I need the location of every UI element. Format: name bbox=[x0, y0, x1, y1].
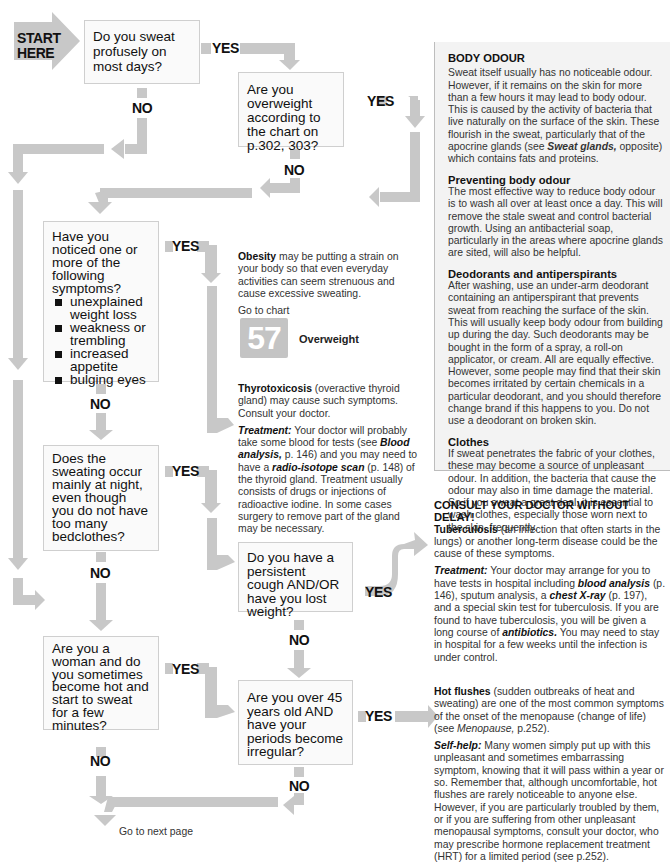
q2-no-label: NO bbox=[284, 162, 304, 178]
antibiotics-link[interactable]: antibiotics. bbox=[502, 627, 557, 638]
question-text: Do you have a persistent cough AND/OR ha… bbox=[247, 550, 339, 619]
section-heading: Clothes bbox=[448, 436, 664, 448]
blood-analysis-link[interactable]: blood analysis bbox=[578, 578, 650, 589]
sweat-glands-link[interactable]: Sweat glands, bbox=[547, 141, 616, 152]
hot-text: p.252). bbox=[514, 723, 549, 734]
symptom-item: increased appetite bbox=[52, 347, 150, 373]
consult-doctor-heading: CONSULT YOUR DOCTOR WITHOUT DELAY! bbox=[434, 499, 666, 524]
body-odour-panel: BODY ODOUR Sweat itself usually has no n… bbox=[434, 42, 670, 471]
start-here-label: START HERE bbox=[17, 31, 61, 61]
q4-no-label: NO bbox=[90, 565, 110, 581]
question-text: Are you overweight according to the char… bbox=[247, 82, 321, 153]
panel-intro: Sweat itself usually has no noticeable o… bbox=[448, 67, 659, 152]
outcome-tuberculosis: CONSULT YOUR DOCTOR WITHOUT DELAY! Tuber… bbox=[434, 499, 666, 669]
self-help-text: Many women simply put up with this unple… bbox=[434, 740, 664, 862]
question-overweight: Are you overweight according to the char… bbox=[238, 72, 344, 147]
q6-yes-label: YES bbox=[172, 661, 199, 677]
q1-yes-label: YES bbox=[212, 40, 239, 56]
obesity-term: Obesity bbox=[238, 251, 276, 262]
outcome-hot-flushes: Hot flushes (sudden outbreaks of heat an… bbox=[434, 686, 666, 866]
footer-partial-text: Go to next page bbox=[119, 826, 193, 837]
symptom-item: weakness or trembling bbox=[52, 321, 150, 347]
start-line-1: START bbox=[17, 31, 61, 46]
section-heading: Preventing body odour bbox=[448, 174, 664, 186]
q5-no-label: NO bbox=[289, 632, 309, 648]
tb-term: Tuberculosis bbox=[434, 524, 498, 535]
chart-name-link[interactable]: Overweight bbox=[299, 333, 359, 345]
q7-no-label: NO bbox=[289, 778, 309, 794]
q6-no-label: NO bbox=[90, 753, 110, 769]
question-symptoms: Have you noticed one or more of the foll… bbox=[43, 221, 159, 382]
q2-yes-label: YES bbox=[367, 93, 394, 109]
question-text: Do you sweat profusely on most days? bbox=[93, 29, 175, 74]
symptom-item: bulging eyes bbox=[52, 373, 150, 386]
question-over-45: Are you over 45 years old AND have your … bbox=[238, 680, 353, 765]
menopause-link[interactable]: Menopause, bbox=[457, 723, 514, 734]
question-text: Have you noticed one or more of the foll… bbox=[52, 230, 150, 295]
q1-no-label: NO bbox=[132, 100, 152, 116]
hot-flushes-term: Hot flushes bbox=[434, 686, 491, 697]
symptom-item: unexplained weight loss bbox=[52, 295, 150, 321]
question-text: Are you a woman and do you sometimes bec… bbox=[52, 641, 149, 733]
q4-yes-label: YES bbox=[172, 463, 199, 479]
section-text: The most effective way to reduce body od… bbox=[448, 186, 664, 260]
self-help-label: Self-help: bbox=[434, 740, 481, 751]
chest-xray-link[interactable]: chest X-ray bbox=[550, 590, 606, 601]
outcome-thyrotoxicosis: Thyrotoxicosis (overactive thyroid gland… bbox=[238, 383, 420, 541]
symptom-list: unexplained weight loss weakness or trem… bbox=[52, 295, 150, 386]
treatment-label: Treatment: bbox=[238, 425, 292, 436]
q7-yes-label: YES bbox=[365, 708, 392, 724]
treatment-label: Treatment: bbox=[434, 565, 488, 576]
question-sweat-profusely: Do you sweat profusely on most days? bbox=[84, 20, 200, 84]
q3-no-label: NO bbox=[90, 396, 110, 412]
question-text: Are you over 45 years old AND have your … bbox=[247, 690, 343, 759]
question-night-sweating: Does the sweating occur mainly at night,… bbox=[43, 445, 159, 551]
thyro-term: Thyrotoxicosis bbox=[238, 383, 312, 394]
section-heading: Deodorants and antiperspirants bbox=[448, 268, 664, 280]
panel-title: BODY ODOUR bbox=[448, 52, 664, 64]
question-text: Does the sweating occur mainly at night,… bbox=[52, 451, 148, 544]
go-to-chart-label: Go to chart bbox=[238, 305, 418, 317]
section-text: After washing, use an under-arm deodoran… bbox=[448, 280, 664, 428]
q5-yes-label: YES bbox=[365, 584, 392, 600]
outcome-obesity: Obesity may be putting a strain on your … bbox=[238, 251, 418, 322]
chart-number-badge[interactable]: 57 bbox=[240, 318, 288, 358]
start-line-2: HERE bbox=[17, 46, 61, 61]
question-persistent-cough: Do you have a persistent cough AND/OR ha… bbox=[238, 542, 353, 612]
question-woman-hot: Are you a woman and do you sometimes bec… bbox=[43, 636, 159, 730]
radio-isotope-link[interactable]: radio-isotope scan bbox=[272, 462, 364, 473]
q3-yes-label: YES bbox=[172, 238, 199, 254]
